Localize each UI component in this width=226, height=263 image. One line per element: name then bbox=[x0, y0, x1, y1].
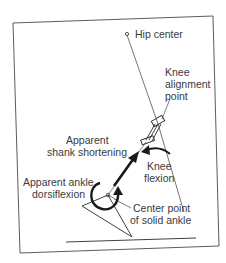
hip-center-label: Hip center bbox=[135, 28, 183, 40]
knee-alignment-label-line2: alignment bbox=[165, 78, 211, 90]
shank-shortening-arrow bbox=[114, 158, 134, 186]
ankle-dorsiflexion-label-line2: dorsiflexion bbox=[32, 188, 85, 200]
knee-flexion-label-line2: flexion bbox=[144, 172, 175, 184]
ankle-dorsiflexion-label-line1: Apparent ankle bbox=[23, 176, 94, 188]
ankle-dorsiflexion-arrowhead-icon bbox=[113, 186, 123, 195]
knee-flexion-arrowhead-icon bbox=[141, 145, 150, 155]
knee-flexion-label-line1: Knee bbox=[147, 160, 172, 172]
shank-shortening-label-line1: Apparent bbox=[66, 134, 109, 146]
shank-arrowhead-icon bbox=[128, 151, 139, 163]
knee-mechanism-icon bbox=[141, 115, 165, 144]
shank-shortening-label-line2: shank shortening bbox=[47, 146, 127, 158]
ground-line bbox=[66, 238, 196, 242]
solid-ankle-label-line1: Center point bbox=[133, 202, 190, 214]
knee-alignment-label-line3: point bbox=[165, 90, 188, 102]
thigh-line bbox=[127, 35, 158, 124]
prosthetic-alignment-diagram: Hip center Knee alignment point Apparent… bbox=[0, 0, 226, 263]
solid-ankle-label-line2: of solid ankle bbox=[130, 214, 191, 226]
knee-alignment-label-line1: Knee bbox=[165, 66, 190, 78]
foot-triangle bbox=[82, 195, 132, 237]
knee-alignment-leader bbox=[162, 99, 170, 119]
